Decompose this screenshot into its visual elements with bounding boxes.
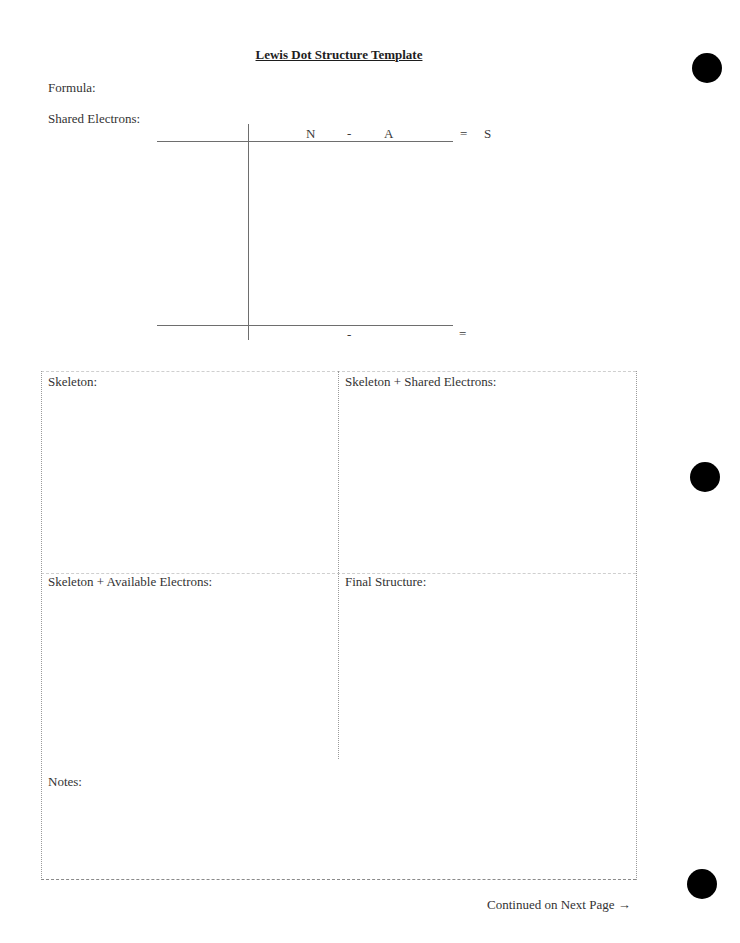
t-chart-equals: = — [460, 126, 467, 142]
hole-punch-top — [692, 53, 722, 83]
skeleton-shared-box-label: Skeleton + Shared Electrons: — [345, 374, 496, 390]
hole-punch-bottom — [687, 869, 717, 899]
t-chart-top-line — [157, 141, 453, 142]
t-chart-vertical-line — [248, 124, 249, 340]
grid-right-border — [636, 371, 637, 880]
skeleton-box-label: Skeleton: — [48, 374, 97, 390]
hole-punch-middle — [690, 462, 720, 492]
t-chart-minus: - — [347, 126, 351, 142]
notes-box-label: Notes: — [48, 774, 82, 790]
formula-label: Formula: — [48, 80, 96, 96]
skeleton-available-box-label: Skeleton + Available Electrons: — [48, 574, 212, 590]
final-structure-box-label: Final Structure: — [345, 574, 426, 590]
shared-electrons-label: Shared Electrons: — [48, 111, 140, 127]
continued-next-page: Continued on Next Page → — [487, 897, 631, 913]
t-chart-a: A — [384, 126, 393, 142]
t-chart-bottom-line — [157, 325, 453, 326]
page-title: Lewis Dot Structure Template — [0, 47, 678, 63]
t-chart-n: N — [306, 126, 315, 142]
t-chart-s: S — [484, 126, 491, 142]
grid-bottom-border — [41, 879, 636, 880]
grid-center-divider — [338, 371, 339, 759]
t-chart-footer-minus: - — [347, 327, 351, 343]
t-chart-footer-equals: = — [459, 326, 466, 342]
grid-left-border — [41, 371, 42, 880]
